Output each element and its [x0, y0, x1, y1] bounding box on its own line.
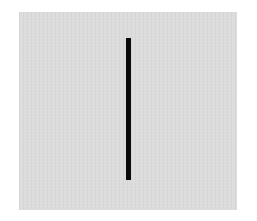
image-canvas	[0, 0, 257, 221]
vertical-black-line	[126, 38, 131, 180]
gray-square-panel	[19, 12, 237, 210]
